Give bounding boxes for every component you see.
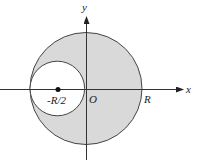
y-axis-label: y xyxy=(81,1,87,13)
x-axis-label: x xyxy=(185,83,191,95)
small-center-label: -R/2 xyxy=(47,94,66,106)
origin-label: O xyxy=(89,93,97,105)
diagram-canvas: x y O -R/2 R xyxy=(0,0,199,161)
big-radius-label: R xyxy=(143,93,151,105)
small-center-dot xyxy=(56,87,61,92)
